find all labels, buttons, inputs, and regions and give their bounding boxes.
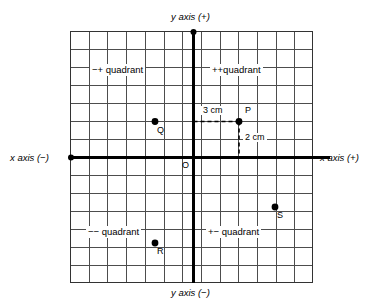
origin-label: O bbox=[182, 161, 189, 170]
x-axis-positive-label: x axis (+) bbox=[320, 153, 359, 163]
y-axis-positive-label: y axis (+) bbox=[171, 12, 210, 22]
y-axis-positive-endpoint-dot bbox=[191, 29, 197, 35]
x-axis-positive-label-text: x axis (+) bbox=[320, 152, 359, 163]
coordinate-plane-figure: y axis (+) y axis (−) x axis (−) x axis … bbox=[0, 0, 371, 305]
point-label-q: Q bbox=[157, 126, 164, 135]
x-axis-negative-label-text: x axis (−) bbox=[10, 152, 49, 163]
point-label-r: R bbox=[157, 247, 164, 256]
y-axis-negative-label: y axis (−) bbox=[171, 288, 210, 298]
point-label-p: P bbox=[245, 106, 251, 115]
x-axis-negative-label: x axis (−) bbox=[10, 153, 49, 163]
y-axis-positive-label-text: y axis (+) bbox=[171, 11, 210, 22]
quadrant-label-minus-minus: −− quadrant bbox=[86, 226, 141, 238]
dimension-label-2cm: 2 cm bbox=[243, 133, 267, 142]
quadrant-label-minus-plus: −+ quadrant bbox=[90, 64, 145, 76]
quadrant-label-plus-minus: +− quadrant bbox=[206, 226, 261, 238]
dimension-label-3cm: 3 cm bbox=[201, 106, 225, 115]
quadrant-label-plus-plus: ++quadrant bbox=[210, 64, 263, 76]
x-axis-negative-endpoint-dot bbox=[68, 155, 74, 161]
point-q-marker bbox=[152, 118, 159, 125]
y-axis-negative-label-text: y axis (−) bbox=[171, 287, 210, 298]
point-label-s: S bbox=[277, 211, 283, 220]
point-p-marker bbox=[236, 118, 243, 125]
coordinate-plane-svg bbox=[0, 0, 371, 305]
